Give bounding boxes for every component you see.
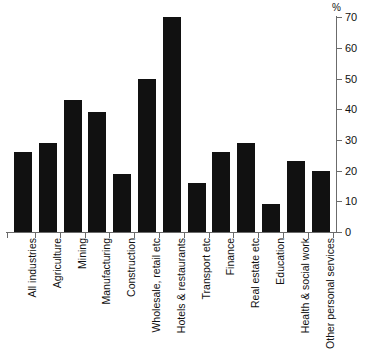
bar: [287, 161, 305, 232]
x-axis-label: All industries: [27, 238, 38, 298]
x-axis-label: Agriculture: [52, 238, 63, 288]
y-axis-tick-label: 70: [345, 12, 357, 23]
bar-chart: % 010203040506070 All industriesAgricult…: [0, 0, 371, 358]
x-axis-label-text: Hotels & restaurants: [176, 238, 187, 333]
y-axis-tick: [337, 201, 342, 202]
y-axis-tick-label: 30: [345, 135, 357, 146]
bar: [113, 174, 131, 232]
x-axis-label-text: Wholesale, retail etc: [151, 238, 162, 333]
x-axis-label: Manufacturing: [101, 238, 112, 305]
x-axis-label-text: All industries: [27, 238, 38, 298]
y-axis-unit-label: %: [332, 3, 341, 13]
y-axis-tick-label: 10: [345, 196, 357, 207]
y-axis-tick-label: 60: [345, 43, 357, 54]
bar: [163, 17, 181, 232]
y-axis-tick: [337, 48, 342, 49]
bar: [262, 204, 280, 232]
x-axis-labels: All industriesAgricultureMiningManufactu…: [0, 238, 371, 358]
bar: [237, 143, 255, 232]
x-axis-label: Education: [275, 238, 286, 285]
bar: [138, 79, 156, 233]
x-axis-label-text: Construction: [126, 238, 137, 297]
y-axis-tick: [337, 17, 342, 18]
bar: [88, 112, 106, 232]
x-axis-label: Mining: [77, 238, 88, 269]
x-axis-label-text: Transport etc: [201, 238, 212, 299]
x-axis-label: Transport etc: [201, 238, 212, 299]
x-axis-label: Other personal services: [325, 238, 336, 349]
x-axis-label: Real estate etc: [250, 238, 261, 308]
x-axis-label-text: Agriculture: [52, 238, 63, 288]
y-axis-tick: [337, 140, 342, 141]
bar: [64, 100, 82, 232]
y-axis-tick: [337, 109, 342, 110]
x-axis-line: [6, 232, 336, 233]
x-axis-label: Health & social work: [300, 238, 311, 333]
bar: [312, 171, 330, 232]
x-axis-label-text: Finance: [225, 238, 236, 275]
bar: [212, 152, 230, 232]
x-axis-label: Finance: [225, 238, 236, 275]
plot-area: [0, 0, 332, 233]
x-axis-label-text: Education: [275, 238, 286, 285]
x-axis-label-text: Other personal services: [325, 238, 336, 349]
y-axis-tick: [337, 171, 342, 172]
y-axis-tick: [337, 232, 342, 233]
bar: [14, 152, 32, 232]
x-axis-label-text: Mining: [77, 238, 88, 269]
y-axis-tick-label: 50: [345, 74, 357, 85]
x-axis-label-text: Manufacturing: [101, 238, 112, 305]
x-axis-label: Construction: [126, 238, 137, 297]
x-axis-label: Wholesale, retail etc: [151, 238, 162, 333]
x-axis-label-text: Real estate etc: [250, 238, 261, 308]
y-axis-tick-label: 20: [345, 166, 357, 177]
x-axis-label-text: Health & social work: [300, 238, 311, 333]
y-axis-tick-label: 0: [345, 227, 351, 238]
x-axis-label: Hotels & restaurants: [176, 238, 187, 333]
y-axis-tick-label: 40: [345, 104, 357, 115]
y-axis-tick: [337, 79, 342, 80]
bar: [39, 143, 57, 232]
bar: [188, 183, 206, 232]
